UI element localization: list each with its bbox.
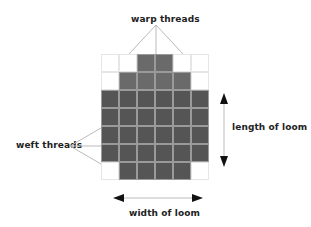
width-arrow-icon [113, 194, 203, 202]
length-arrow-icon [220, 93, 228, 167]
diagram-overlay [0, 0, 311, 227]
weft-callout-lines [70, 128, 101, 164]
warp-callout-lines [129, 25, 183, 54]
